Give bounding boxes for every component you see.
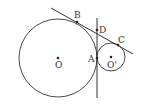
point-label: C	[118, 35, 125, 45]
tangent-line-BC	[51, 8, 133, 54]
point-B-marker	[76, 21, 79, 24]
point-O-prime-marker	[110, 56, 113, 59]
point-O-marker	[57, 57, 60, 60]
geometry-diagram: BDCAOO'	[0, 0, 143, 107]
point-label: D	[99, 25, 106, 35]
diagram-canvas: BDCAOO'	[0, 0, 143, 107]
point-D-marker	[96, 29, 99, 32]
point-label: O'	[107, 60, 117, 70]
point-label: B	[74, 10, 81, 20]
point-label: A	[87, 54, 95, 64]
point-A-marker	[96, 57, 99, 60]
point-label: O	[55, 60, 62, 70]
